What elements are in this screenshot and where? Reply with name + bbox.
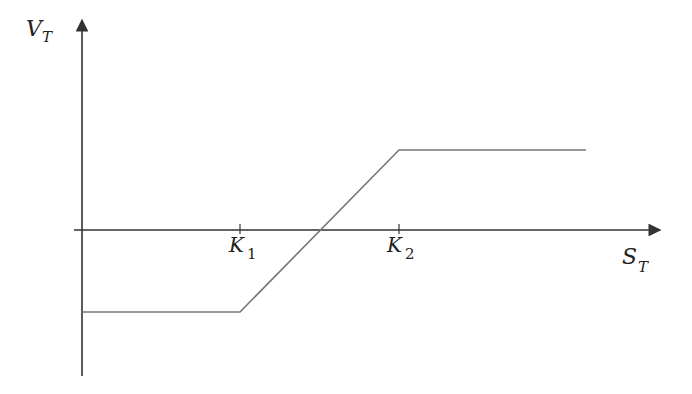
tick-label-k1-subscript: 1 (247, 245, 257, 263)
x-axis-label-subscript: T (638, 258, 649, 276)
tick-label-k2: K (386, 233, 403, 257)
payoff-line (82, 150, 586, 312)
tick-label-k2-subscript: 2 (405, 245, 415, 263)
y-axis-label-subscript: T (42, 28, 53, 46)
x-axis-label: S (622, 244, 637, 269)
tick-label-k1: K (228, 233, 245, 257)
payoff-diagram: V T S T K 1 K 2 (0, 0, 692, 394)
